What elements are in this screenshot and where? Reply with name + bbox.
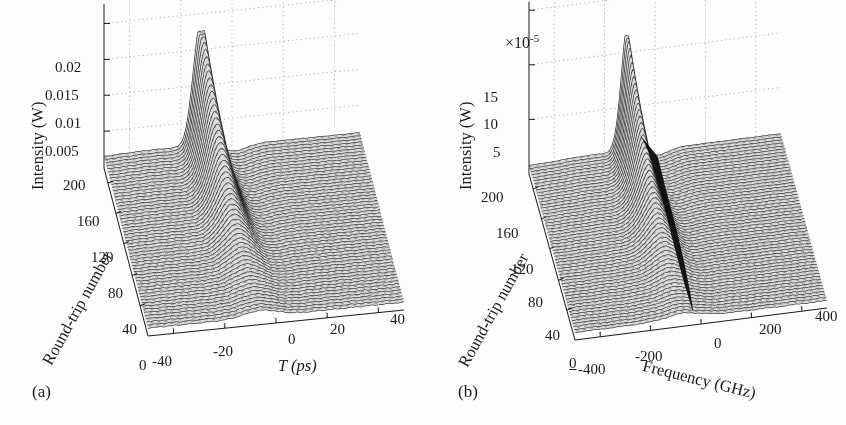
z-tick-label-b-2: 5 xyxy=(493,145,501,160)
panel-tag-a: (a) xyxy=(32,383,51,400)
panel-b: ×10-5 Intensity (W) 15 10 5 Round-trip n… xyxy=(423,0,846,425)
x-tick-label-a-0: -40 xyxy=(152,354,172,369)
z-tick-label-b-0: 15 xyxy=(483,90,498,105)
depth-origin-label-a: 0 xyxy=(139,358,147,373)
depth-tick-label-b-4: 40 xyxy=(545,328,560,343)
multiplier-exponent: -5 xyxy=(530,32,539,44)
z-tick-label-a-1: 0.015 xyxy=(45,88,79,103)
z-tick-label-a-2: 0.01 xyxy=(55,116,81,131)
x-axis-title-a: T (ps) xyxy=(278,358,317,375)
panel-a: Intensity (W) 0.02 0.015 0.01 0.005 Roun… xyxy=(0,0,423,425)
depth-tick-label-a-2: 120 xyxy=(91,250,114,265)
depth-tick-label-a-4: 40 xyxy=(122,322,137,337)
panel-tag-b: (b) xyxy=(458,383,478,400)
depth-tick-label-b-1: 160 xyxy=(496,226,519,241)
depth-tick-label-b-0: 200 xyxy=(481,190,504,205)
x-tick-label-b-4: 400 xyxy=(815,309,838,324)
z-axis-multiplier-b: ×10-5 xyxy=(505,33,539,51)
x-tick-label-a-3: 20 xyxy=(330,322,345,337)
x-tick-label-b-2: 0 xyxy=(714,336,722,351)
z-tick-label-a-0: 0.02 xyxy=(55,60,81,75)
z-tick-label-a-3: 0.005 xyxy=(45,144,79,159)
x-tick-label-a-4: 40 xyxy=(390,312,405,327)
depth-tick-label-a-3: 80 xyxy=(108,286,123,301)
x-tick-label-a-2: 0 xyxy=(288,332,296,347)
figure-root: Intensity (W) 0.02 0.015 0.01 0.005 Roun… xyxy=(0,0,846,425)
z-axis-title-b: Intensity (W) xyxy=(458,102,475,190)
depth-tick-label-b-3: 80 xyxy=(528,295,543,310)
depth-origin-label-b: 0 xyxy=(569,356,577,371)
z-tick-label-b-1: 10 xyxy=(483,117,498,132)
depth-tick-label-a-1: 160 xyxy=(77,214,100,229)
depth-tick-label-a-0: 200 xyxy=(63,178,86,193)
multiplier-base: ×10 xyxy=(505,34,530,51)
x-tick-label-b-3: 200 xyxy=(759,322,782,337)
depth-tick-label-b-2: 120 xyxy=(511,262,534,277)
x-tick-label-b-0: -400 xyxy=(578,362,606,377)
x-tick-label-a-1: -20 xyxy=(213,344,233,359)
